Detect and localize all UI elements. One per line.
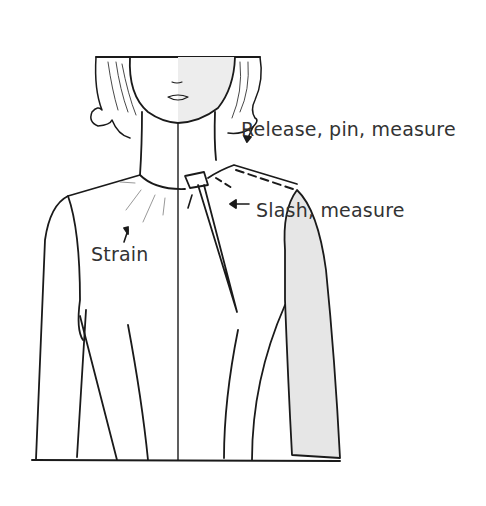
bodice-illustration (0, 0, 486, 506)
diagram-canvas: Release, pin, measure Slash, measure Str… (0, 0, 486, 506)
label-strain: Strain (91, 243, 149, 265)
dashed-shoulder-line (236, 170, 296, 190)
label-slash: Slash, measure (256, 199, 405, 221)
hem-baseline (32, 460, 340, 461)
right-sleeve-shaded (285, 190, 341, 458)
hair-left (91, 57, 130, 138)
neck-left (140, 112, 142, 175)
left-shoulder-arm (36, 175, 140, 459)
neck-right (215, 112, 216, 160)
label-release: Release, pin, measure (241, 118, 456, 140)
